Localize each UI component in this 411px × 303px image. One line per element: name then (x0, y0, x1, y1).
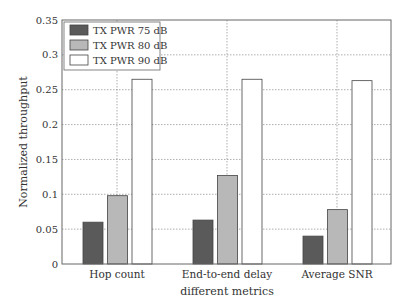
bar (83, 222, 103, 264)
y-axis-ticks: 00.050.10.150.20.250.30.35 (36, 15, 58, 270)
y-tick-label: 0.3 (42, 49, 58, 60)
bar (303, 236, 323, 264)
y-tick-label: 0.05 (36, 224, 58, 235)
y-tick-label: 0.1 (42, 189, 58, 200)
bars (83, 79, 372, 264)
bar (218, 175, 238, 264)
y-tick-label: 0.15 (36, 154, 58, 165)
y-tick-label: 0.35 (36, 15, 58, 26)
legend-swatch (70, 40, 88, 50)
x-tick-label: Average SNR (300, 268, 373, 280)
legend: TX PWR 75 dBTX PWR 80 dBTX PWR 90 dB (64, 22, 167, 70)
legend-label: TX PWR 75 dB (93, 25, 167, 36)
x-tick-label: End-to-end delay (182, 268, 272, 280)
bar (108, 196, 128, 264)
legend-label: TX PWR 90 dB (93, 55, 167, 66)
bar-chart: 00.050.10.150.20.250.30.35 Hop countEnd-… (0, 0, 411, 303)
legend-swatch (70, 25, 88, 35)
bar (328, 210, 348, 264)
y-tick-label: 0 (52, 259, 58, 270)
legend-label: TX PWR 80 dB (93, 40, 167, 51)
bar (193, 220, 213, 264)
bar (352, 81, 372, 264)
x-tick-label: Hop count (89, 268, 145, 280)
y-tick-label: 0.2 (42, 119, 58, 130)
bar (242, 79, 262, 264)
x-axis-ticks: Hop countEnd-to-end delayAverage SNR (89, 268, 373, 280)
y-tick-label: 0.25 (36, 84, 58, 95)
bar (132, 79, 152, 264)
y-axis-label: Normalized throughput (17, 76, 30, 208)
legend-swatch (70, 55, 88, 65)
x-axis-label: different metrics (180, 285, 274, 298)
